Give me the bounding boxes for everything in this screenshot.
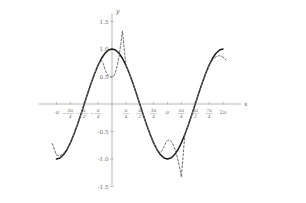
svg-text:2π: 2π	[219, 109, 227, 115]
svg-text:4: 4	[179, 114, 183, 119]
y-tick-label: 1.0	[100, 46, 109, 52]
x-tick-label: 5π4	[178, 108, 185, 119]
y-tick-label: 0.5	[100, 74, 109, 80]
axes-group	[39, 14, 242, 187]
svg-text:2: 2	[82, 114, 86, 119]
x-tick-label: π	[165, 109, 170, 115]
svg-text:4: 4	[96, 114, 100, 119]
x-tick-label: π4	[91, 108, 102, 119]
svg-text:π: π	[96, 108, 100, 113]
x-tick-label: -π	[54, 109, 60, 115]
svg-text:5π: 5π	[179, 108, 185, 113]
y-tick-label: -1.0	[98, 156, 109, 162]
x-tick-label: π4	[122, 108, 129, 119]
svg-text:2: 2	[137, 114, 141, 119]
svg-text:3π: 3π	[151, 108, 157, 113]
y-tick-label: 1.5	[100, 19, 109, 25]
y-axis-label: y	[115, 7, 120, 15]
svg-text:π: π	[82, 108, 86, 113]
svg-text:3π: 3π	[68, 108, 74, 113]
svg-text:-π: -π	[54, 109, 60, 115]
svg-text:4: 4	[124, 114, 128, 119]
y-tick-label: -1.5	[98, 184, 109, 190]
x-tick-label: π2	[77, 108, 88, 119]
svg-text:4: 4	[68, 114, 72, 119]
x-tick-label: 7π4	[206, 108, 213, 119]
x-tick-label: 3π4	[63, 108, 74, 119]
x-tick-label: 3π2	[192, 108, 199, 119]
chart-figure: -π3π4π2π4π4π23π4π5π43π27π42π -1.5-1.0-0.…	[0, 0, 306, 203]
svg-text:π: π	[137, 108, 141, 113]
chart-canvas: -π3π4π2π4π4π23π4π5π43π27π42π -1.5-1.0-0.…	[0, 0, 306, 203]
x-tick-label: 3π4	[150, 108, 157, 119]
svg-text:π: π	[123, 108, 127, 113]
x-axis-label: x	[244, 100, 248, 107]
svg-text:7π: 7π	[206, 108, 212, 113]
svg-text:π: π	[165, 109, 170, 115]
x-tick-label: 2π	[219, 109, 227, 115]
svg-text:3π: 3π	[192, 108, 198, 113]
svg-text:4: 4	[151, 114, 155, 119]
y-tick-label: -0.5	[98, 129, 109, 135]
svg-text:4: 4	[207, 114, 211, 119]
svg-text:2: 2	[193, 114, 197, 119]
